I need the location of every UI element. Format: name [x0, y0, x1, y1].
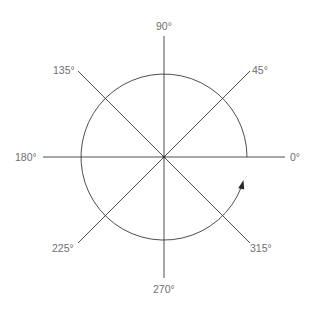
- label-135: 135°: [53, 64, 75, 76]
- label-270: 270°: [153, 283, 175, 295]
- label-90: 90°: [156, 20, 172, 32]
- center-point: [163, 156, 166, 159]
- angle-labels: 0° 45° 90° 135° 180° 225° 270° 315°: [15, 20, 300, 295]
- angle-diagram: 0° 45° 90° 135° 180° 225° 270° 315°: [0, 0, 313, 309]
- arrowhead-icon: [238, 180, 244, 190]
- label-225: 225°: [52, 242, 74, 254]
- label-180: 180°: [15, 151, 37, 163]
- label-0: 0°: [290, 151, 300, 163]
- label-45: 45°: [252, 64, 268, 76]
- label-315: 315°: [250, 242, 272, 254]
